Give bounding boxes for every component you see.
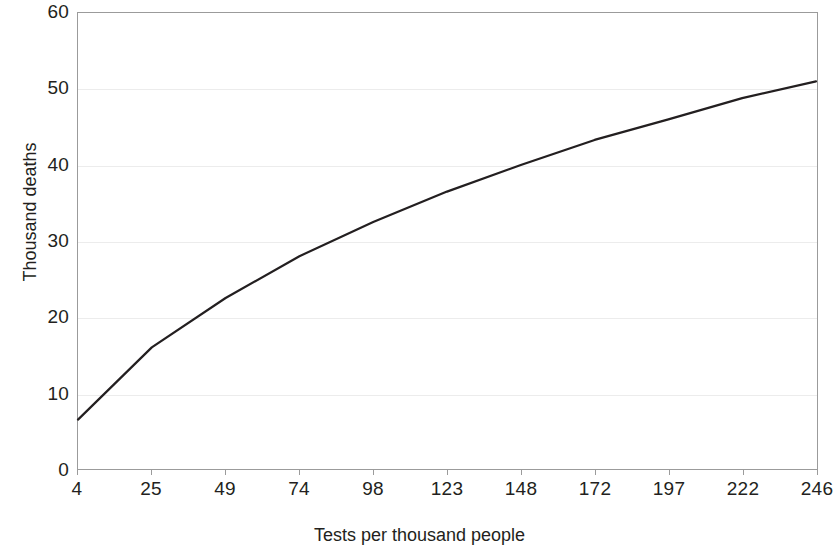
x-tick-label-197: 197 bbox=[629, 478, 709, 500]
x-tick-label-98: 98 bbox=[333, 478, 413, 500]
x-tick-mark-197 bbox=[669, 470, 670, 475]
y-tick-label-20: 20 bbox=[5, 307, 69, 326]
y-axis-title: Thousand deaths bbox=[20, 122, 40, 302]
y-tick-label-60: 60 bbox=[5, 2, 69, 21]
x-tick-label-123: 123 bbox=[407, 478, 487, 500]
x-tick-label-74: 74 bbox=[259, 478, 339, 500]
x-tick-label-172: 172 bbox=[555, 478, 635, 500]
x-tick-label-49: 49 bbox=[185, 478, 265, 500]
x-tick-mark-25 bbox=[151, 470, 152, 475]
x-tick-mark-148 bbox=[521, 470, 522, 475]
x-tick-mark-4 bbox=[77, 470, 78, 475]
series-line-thousand-deaths bbox=[78, 81, 816, 419]
y-tick-label-50: 50 bbox=[5, 78, 69, 97]
x-tick-label-246: 246 bbox=[777, 478, 839, 500]
y-tick-label-0: 0 bbox=[5, 460, 69, 479]
x-tick-mark-49 bbox=[225, 470, 226, 475]
series-line-layer bbox=[78, 13, 817, 469]
x-tick-label-4: 4 bbox=[37, 478, 117, 500]
x-tick-mark-246 bbox=[817, 470, 818, 475]
x-tick-mark-123 bbox=[447, 470, 448, 475]
x-tick-label-222: 222 bbox=[703, 478, 783, 500]
x-tick-mark-222 bbox=[743, 470, 744, 475]
line-chart: 6050403020100 Thousand deaths 4254974981… bbox=[0, 0, 839, 554]
x-axis-tick-labels: 425497498123148172197222246 bbox=[0, 478, 839, 506]
x-tick-label-148: 148 bbox=[481, 478, 561, 500]
x-axis-title: Tests per thousand people bbox=[0, 524, 839, 546]
x-tick-label-25: 25 bbox=[111, 478, 191, 500]
plot-area bbox=[77, 12, 818, 470]
x-tick-mark-172 bbox=[595, 470, 596, 475]
y-tick-label-10: 10 bbox=[5, 384, 69, 403]
x-tick-mark-98 bbox=[373, 470, 374, 475]
x-tick-mark-74 bbox=[299, 470, 300, 475]
